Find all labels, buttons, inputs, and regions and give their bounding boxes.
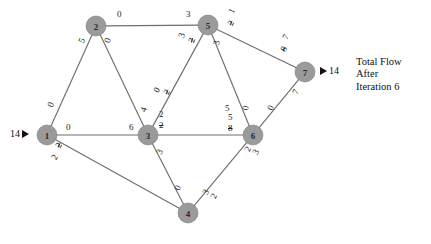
edges-group [51, 25, 300, 209]
node-label-5: 5 [206, 21, 211, 31]
node-5[interactable]: 5 [198, 15, 218, 35]
edge-6-7 [259, 79, 300, 128]
node-3[interactable]: 3 [138, 125, 158, 145]
nodes-group: 1234567 [37, 15, 315, 223]
label-1-3-near3: 6 [129, 123, 134, 132]
caption-line-1: Total Flow [356, 56, 402, 68]
label-2-5-near5: 3 [186, 10, 191, 19]
label-3-5-n2: 2 [159, 121, 164, 130]
node-label-2: 2 [94, 22, 99, 32]
node-label-3: 3 [146, 131, 151, 141]
caption-total-flow: Total Flow After Iteration 6 [356, 56, 402, 93]
edge-2-3 [100, 34, 144, 127]
label-5-6-mid: 5 [225, 104, 230, 113]
edge-2-5 [105, 25, 199, 26]
label-3-6-near6b: 8 [228, 124, 233, 133]
arrow-right-icon [320, 67, 327, 75]
node-label-1: 1 [45, 131, 50, 141]
node-label-6: 6 [251, 131, 256, 141]
edge-1-2 [51, 34, 93, 127]
node-4[interactable]: 4 [178, 203, 198, 223]
arrow-right-icon [22, 130, 29, 138]
flow-network-diagram: 1234567 05062203043222023058322330512787… [0, 0, 431, 244]
caption-line-3: Iteration 6 [356, 81, 402, 93]
label-2-5-near2: 0 [117, 10, 122, 19]
edge-4-6 [194, 142, 247, 206]
caption-line-2: After [356, 68, 402, 80]
node-label-7: 7 [303, 68, 308, 78]
source-flow-value: 14 [10, 128, 20, 139]
label-1-3-near1: 0 [66, 123, 71, 132]
label-3-5-n1: 2 [159, 110, 164, 119]
node-7[interactable]: 7 [295, 62, 315, 82]
source-flow-terminal: 14 [10, 128, 29, 139]
sink-flow-terminal: 14 [320, 65, 339, 76]
label-3-6-near6a: 5 [228, 113, 233, 122]
node-2[interactable]: 2 [86, 16, 106, 36]
node-6[interactable]: 6 [243, 125, 263, 145]
graph-canvas: 1234567 [0, 0, 431, 244]
node-label-4: 4 [186, 209, 191, 219]
sink-flow-value: 14 [329, 65, 339, 76]
